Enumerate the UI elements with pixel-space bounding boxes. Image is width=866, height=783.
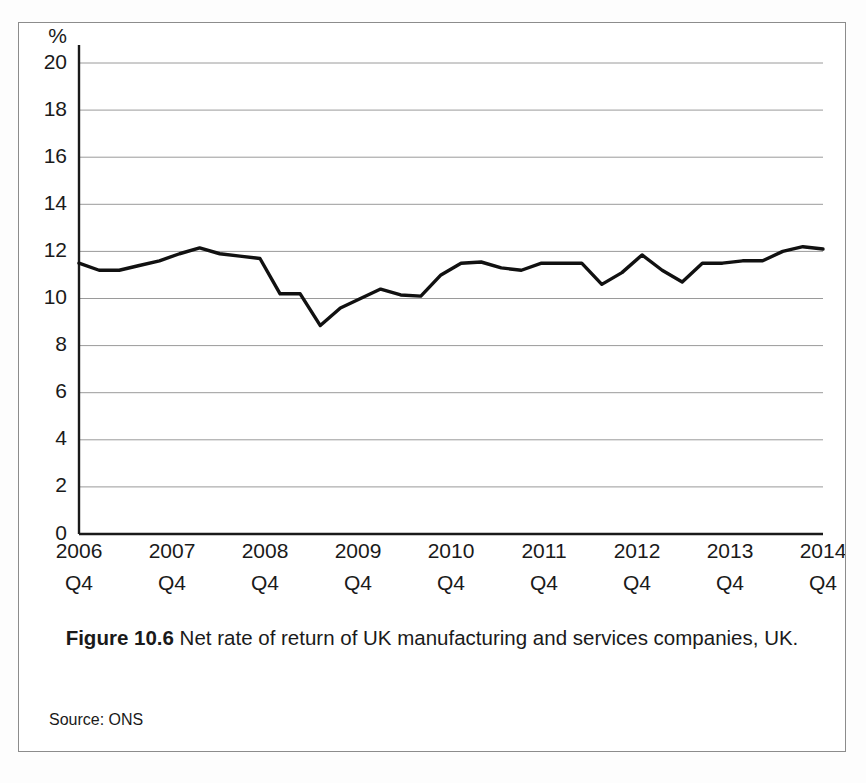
source-note: Source: ONS: [49, 711, 143, 729]
x-axis-quarter-label: Q4: [623, 571, 651, 594]
x-axis-year-label: 2013: [707, 539, 754, 562]
y-axis-tick-label: 16: [44, 144, 67, 167]
y-axis-tick-label: 12: [44, 238, 67, 261]
y-axis-tick-label: 14: [44, 191, 68, 214]
y-axis-tick-label: 8: [55, 332, 67, 355]
line-chart: 02468101214161820%2006Q42007Q42008Q42009…: [19, 23, 845, 623]
x-axis-quarter-label: Q4: [158, 571, 186, 594]
x-axis-year-label: 2007: [149, 539, 196, 562]
x-axis-quarter-label: Q4: [716, 571, 744, 594]
x-axis-quarter-label: Q4: [65, 571, 93, 594]
x-axis-year-label: 2014: [800, 539, 845, 562]
chart-plot-area: 02468101214161820%2006Q42007Q42008Q42009…: [19, 23, 845, 623]
x-axis-quarter-label: Q4: [530, 571, 558, 594]
x-axis-year-label: 2009: [335, 539, 382, 562]
x-axis-year-label: 2012: [614, 539, 661, 562]
x-axis-quarter-label: Q4: [251, 571, 279, 594]
figure-number: Figure 10.6: [66, 626, 174, 649]
y-axis-tick-label: 6: [55, 379, 67, 402]
x-axis-quarter-label: Q4: [344, 571, 372, 594]
y-axis-tick-label: 4: [55, 426, 67, 449]
y-axis-tick-label: 20: [44, 50, 67, 73]
figure-container: 02468101214161820%2006Q42007Q42008Q42009…: [18, 22, 846, 752]
x-axis-year-label: 2006: [56, 539, 103, 562]
x-axis-year-label: 2008: [242, 539, 289, 562]
data-series-line: [79, 247, 823, 326]
x-axis-year-label: 2010: [428, 539, 475, 562]
figure-caption-text: Net rate of return of UK manufacturing a…: [180, 626, 799, 649]
y-axis-unit-label: %: [48, 24, 67, 47]
y-axis-tick-label: 2: [55, 473, 67, 496]
y-axis-tick-label: 18: [44, 97, 67, 120]
x-axis-year-label: 2011: [521, 539, 566, 562]
x-axis-quarter-label: Q4: [809, 571, 837, 594]
figure-caption: Figure 10.6 Net rate of return of UK man…: [59, 623, 805, 653]
y-axis-tick-label: 10: [44, 285, 67, 308]
x-axis-quarter-label: Q4: [437, 571, 465, 594]
